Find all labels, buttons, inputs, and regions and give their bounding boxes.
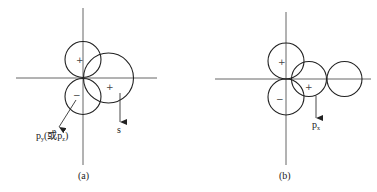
panel-a: + − + py(或pz) s (a) <box>16 8 157 182</box>
s-label: s <box>117 124 121 135</box>
orbital-overlap-figure: + − + py(或pz) s (a) + − + px (b) <box>0 0 377 192</box>
minus-sign-bottom-b: − <box>276 94 284 104</box>
minus-sign-bottom-a: − <box>73 90 81 100</box>
plus-sign-top-b: + <box>278 57 286 67</box>
px-label: px <box>312 119 320 131</box>
plus-sign-large-a: + <box>106 82 114 92</box>
panel-b: + − + px (b) <box>215 12 371 182</box>
plus-sign-middle-b: + <box>305 82 313 92</box>
plus-sign-top-a: + <box>76 55 84 65</box>
py-label: py(或pz) <box>36 130 68 142</box>
py-arrow <box>59 100 76 127</box>
caption-b: (b) <box>279 170 291 182</box>
caption-a: (a) <box>78 170 89 182</box>
